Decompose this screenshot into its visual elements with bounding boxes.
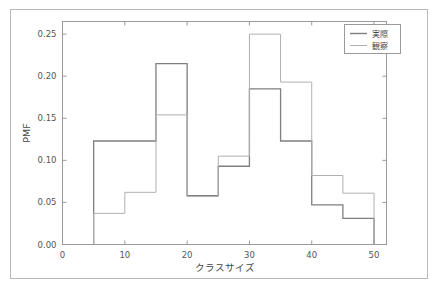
y-tick-label: 0.05 <box>38 197 57 207</box>
x-tick-label: 0 <box>60 250 65 260</box>
data-series-group <box>94 34 374 244</box>
legend-entry-label: 実際 <box>372 29 388 39</box>
x-tick-label: 40 <box>306 250 317 260</box>
legend-entry-label: 観察 <box>372 41 388 51</box>
x-tick-label: 10 <box>119 250 130 260</box>
series-step-line <box>94 34 374 244</box>
series-step-line <box>94 64 374 245</box>
x-tick-label: 50 <box>369 250 380 260</box>
y-axis-tick-labels: 0.000.050.100.150.200.25 <box>38 29 57 249</box>
y-tick-label: 0.15 <box>38 113 57 123</box>
y-tick-label: 0.25 <box>38 29 57 39</box>
x-tick-label: 30 <box>244 250 255 260</box>
figure-canvas: 01020304050 0.000.050.100.150.200.25 クラス… <box>0 0 438 289</box>
x-axis-ticks <box>63 22 375 245</box>
y-tick-label: 0.00 <box>38 240 57 250</box>
y-tick-label: 0.10 <box>38 155 57 165</box>
chart-legend[interactable]: 実際観察 <box>345 25 401 54</box>
plot-area: 01020304050 0.000.050.100.150.200.25 クラス… <box>0 0 438 289</box>
axes-frame <box>63 22 387 245</box>
y-axis-title: PMF <box>21 123 32 142</box>
x-axis-title: クラスサイズ <box>195 262 255 273</box>
y-tick-label: 0.20 <box>38 71 57 81</box>
x-tick-label: 20 <box>182 250 193 260</box>
x-axis-tick-labels: 01020304050 <box>60 250 380 260</box>
chart-svg: 01020304050 0.000.050.100.150.200.25 クラス… <box>0 0 438 289</box>
